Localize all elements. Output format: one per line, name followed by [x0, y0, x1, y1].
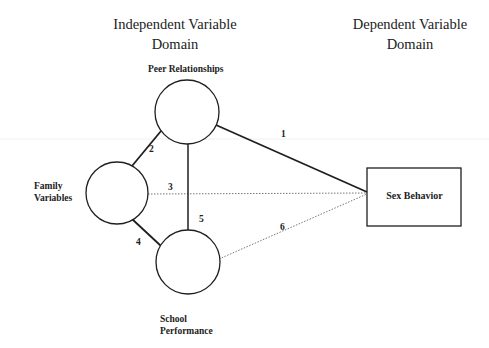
- label-family-line1: Family: [34, 180, 72, 192]
- label-school-line2: Performance: [160, 325, 213, 337]
- label-peer-relationships: Peer Relationships: [148, 63, 224, 75]
- heading-dependent-line1: Dependent Variable: [335, 14, 485, 34]
- edge-label-4: 4: [136, 237, 141, 247]
- edge-label-6: 6: [280, 222, 285, 232]
- edge-2-family-to-peer: [132, 131, 161, 166]
- node-school-performance-circle: [156, 230, 220, 294]
- heading-independent-line1: Independent Variable: [100, 14, 250, 34]
- label-family-variables: Family Variables: [34, 180, 72, 204]
- edge-label-2: 2: [149, 144, 154, 154]
- edge-3-family-to-sex: [148, 193, 367, 194]
- label-family-line2: Variables: [34, 192, 72, 204]
- edge-label-5: 5: [199, 214, 204, 224]
- label-sex-behavior: Sex Behavior: [367, 190, 462, 201]
- label-school-performance: School Performance: [160, 313, 213, 337]
- label-school-line1: School: [160, 313, 213, 325]
- edge-label-1: 1: [281, 129, 286, 139]
- heading-independent-line2: Domain: [100, 34, 250, 54]
- node-peer-relationships-circle: [155, 80, 219, 144]
- heading-dependent-line2: Domain: [335, 34, 485, 54]
- edge-1-peer-to-sex: [216, 125, 367, 192]
- edge-6-school-to-sex: [219, 194, 367, 259]
- heading-independent-domain: Independent Variable Domain: [100, 14, 250, 54]
- edge-label-3: 3: [168, 182, 173, 192]
- heading-dependent-domain: Dependent Variable Domain: [335, 14, 485, 54]
- node-family-variables-circle: [86, 162, 148, 224]
